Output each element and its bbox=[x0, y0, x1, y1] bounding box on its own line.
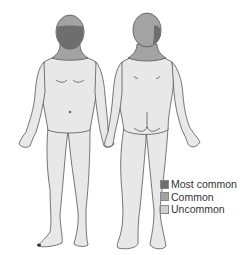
legend: Most common Common Uncommon bbox=[160, 178, 237, 216]
front-right-leg bbox=[68, 128, 90, 246]
body-distribution-diagram bbox=[0, 0, 246, 255]
back-face-side bbox=[153, 25, 161, 44]
legend-item-common: Common bbox=[160, 191, 237, 204]
most-common-swatch bbox=[160, 180, 169, 189]
common-swatch bbox=[160, 192, 169, 201]
legend-label: Uncommon bbox=[171, 203, 225, 216]
back-right-arm bbox=[172, 62, 200, 147]
front-left-leg bbox=[38, 128, 68, 247]
back-torso bbox=[117, 56, 173, 135]
legend-label: Common bbox=[171, 191, 214, 204]
front-toe-mark bbox=[37, 244, 41, 247]
front-body-figure bbox=[19, 15, 114, 247]
legend-label: Most common bbox=[171, 178, 237, 191]
uncommon-swatch bbox=[160, 205, 169, 214]
front-left-arm bbox=[19, 62, 45, 147]
legend-item-most-common: Most common bbox=[160, 178, 237, 191]
back-left-arm bbox=[105, 62, 122, 147]
legend-item-uncommon: Uncommon bbox=[160, 203, 237, 216]
front-torso bbox=[41, 56, 97, 133]
back-left-leg bbox=[117, 128, 146, 249]
